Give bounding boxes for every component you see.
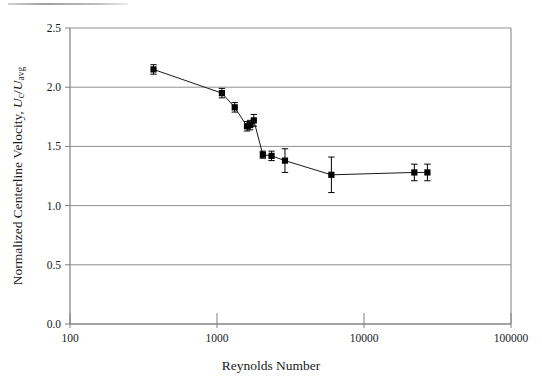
- y-tick-label-2.0: 2.0: [47, 81, 62, 93]
- data-point-marker: [219, 90, 225, 96]
- data-point-marker: [268, 153, 274, 159]
- y-tick-label-0.0: 0.0: [47, 318, 62, 330]
- y-tick-label-1.5: 1.5: [47, 140, 62, 152]
- data-point-marker: [424, 169, 430, 175]
- y-tick-label-0.5: 0.5: [47, 259, 62, 271]
- line-chart: 100100010000100000 0.00.51.01.52.02.5 Re…: [0, 0, 542, 388]
- y-tick-label-2.5: 2.5: [47, 22, 62, 34]
- x-tick-label-100: 100: [61, 332, 79, 344]
- x-tick-label-10000: 10000: [350, 332, 379, 344]
- x-tick-label-100000: 100000: [494, 332, 529, 344]
- data-point-marker: [260, 152, 266, 158]
- y-axis-title-subscript-avg: avg: [16, 66, 26, 80]
- figure-root: 100100010000100000 0.00.51.01.52.02.5 Re…: [0, 0, 542, 388]
- data-point-marker: [282, 158, 288, 164]
- data-point-marker: [328, 172, 334, 178]
- y-axis-title: Normalized Centerline Velocity, Uc/Uavg: [10, 66, 26, 285]
- y-tick-label-1.0: 1.0: [47, 200, 62, 212]
- chart-background: [0, 0, 542, 388]
- y-axis-title-prefix: Normalized Centerline Velocity,: [10, 108, 25, 285]
- data-point-marker: [232, 104, 238, 110]
- x-tick-label-1000: 1000: [206, 332, 229, 344]
- scan-artifact-line: [8, 3, 128, 5]
- svg-text:Normalized Centerline Velocity: Normalized Centerline Velocity, Uc/Uavg: [10, 66, 26, 285]
- data-point-marker: [251, 117, 257, 123]
- data-point-marker: [150, 66, 156, 72]
- x-axis-title: Reynolds Number: [222, 358, 321, 373]
- data-point-marker: [411, 169, 417, 175]
